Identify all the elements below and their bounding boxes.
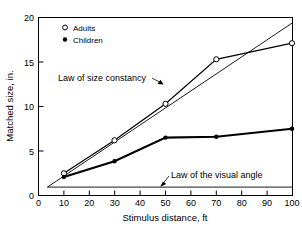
y-tick-label: 10 [24, 102, 34, 112]
y-tick-label: 20 [24, 13, 34, 23]
data-point-adults [214, 57, 219, 62]
chart-svg: 0 5 10 15 20 0 10 20 30 40 50 60 70 80 9… [0, 0, 302, 230]
y-tick-label: 0 [29, 191, 34, 201]
x-tick-label: 90 [262, 198, 272, 208]
x-tick-label: 50 [160, 198, 170, 208]
x-tick-label: 80 [237, 198, 247, 208]
x-tick-label: 60 [186, 198, 196, 208]
x-tick-label: 40 [135, 198, 145, 208]
annotation-label: Law of the visual angle [171, 170, 263, 180]
y-tick-label: 5 [29, 147, 34, 157]
annotation-label: Law of size constancy [58, 73, 147, 83]
data-point-children [112, 159, 116, 163]
x-tick-label: 30 [110, 198, 120, 208]
legend-marker-filled-circle-icon [63, 37, 67, 41]
y-axis-label: Matched size, in. [4, 70, 15, 141]
x-tick-label: 10 [59, 198, 69, 208]
legend-marker-open-circle-icon [63, 25, 68, 30]
data-point-adults [289, 41, 294, 46]
data-point-adults [112, 138, 117, 143]
data-point-children [290, 127, 294, 131]
x-tick-label: 20 [84, 198, 94, 208]
x-tick-label: 100 [284, 198, 299, 208]
data-point-adults [163, 101, 168, 106]
data-point-children [62, 175, 66, 179]
data-point-children [214, 135, 218, 139]
chart-figure: 0 5 10 15 20 0 10 20 30 40 50 60 70 80 9… [0, 0, 302, 230]
legend-label-adults: Adults [73, 24, 95, 33]
x-axis-label: Stimulus distance, ft [122, 212, 207, 223]
x-tick-label: 0 [36, 198, 41, 208]
y-tick-label: 15 [24, 58, 34, 68]
x-tick-label: 70 [211, 198, 221, 208]
data-point-children [163, 135, 167, 139]
legend-label-children: Children [73, 36, 103, 45]
